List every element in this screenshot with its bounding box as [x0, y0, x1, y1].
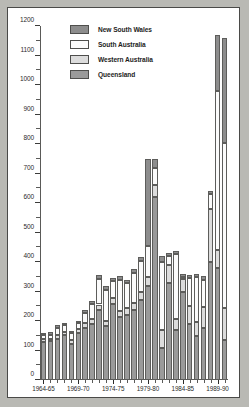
x-tick	[176, 380, 177, 383]
y-tick	[35, 350, 40, 351]
bar-1969-70	[76, 321, 82, 380]
y-tick-label: 1200	[20, 16, 34, 23]
y-tick	[36, 158, 40, 159]
bar-segment-nsw	[131, 269, 137, 273]
bar-segment-wa	[152, 185, 158, 197]
bar-1977-78	[131, 269, 137, 380]
bar-segment-qld	[159, 348, 165, 380]
x-tick	[127, 380, 128, 383]
bar-segment-nsw	[152, 159, 158, 168]
bar-segment-sa	[138, 261, 144, 292]
y-tick	[36, 217, 40, 218]
bar-segment-sa	[215, 91, 221, 250]
bar-segment-wa	[82, 323, 88, 328]
plot-area: 0100200300400500600700800900100011001200…	[40, 26, 228, 380]
bar-segment-qld	[166, 283, 172, 380]
bar-segment-sa	[208, 194, 214, 209]
chart-card: New South WalesSouth AustraliaWestern Au…	[7, 7, 240, 398]
bar-1971-72	[89, 301, 95, 380]
bar-segment-nsw	[103, 286, 109, 290]
bar-1975-76	[117, 276, 123, 380]
y-tick	[36, 305, 40, 306]
y-tick	[36, 276, 40, 277]
bar-segment-sa	[48, 335, 54, 339]
bar-segment-nsw	[124, 280, 130, 284]
x-tick	[148, 380, 149, 384]
bar-segment-wa	[208, 209, 214, 262]
y-tick	[35, 202, 40, 203]
x-tick	[155, 380, 156, 383]
bar-segment-wa	[187, 306, 193, 324]
bar-segment-sa	[201, 280, 207, 307]
x-tick	[134, 380, 135, 383]
y-tick	[35, 55, 40, 56]
bar-segment-qld	[110, 304, 116, 380]
x-tick	[92, 380, 93, 383]
bar-segment-nsw	[145, 159, 151, 246]
y-tick	[35, 84, 40, 85]
bar-segment-nsw	[117, 276, 123, 280]
y-tick	[36, 335, 40, 336]
bar-segment-nsw	[159, 256, 165, 262]
bar-segment-wa	[159, 330, 165, 348]
y-tick-label: 400	[23, 252, 34, 259]
bar-segment-wa	[110, 298, 116, 304]
y-tick-label: 0	[30, 370, 34, 377]
bar-segment-qld	[76, 333, 82, 380]
bar-segment-wa	[48, 339, 54, 341]
bar-segment-wa	[215, 250, 221, 268]
bar-segment-wa	[131, 303, 137, 309]
bar-segment-qld	[41, 342, 47, 380]
bar-1978-79	[138, 257, 144, 380]
x-tick	[169, 380, 170, 383]
bar-segment-nsw	[48, 332, 54, 334]
y-tick	[35, 25, 40, 26]
bar-1976-77	[124, 280, 130, 380]
bar-segment-nsw	[69, 331, 75, 333]
bar-segment-nsw	[180, 274, 186, 277]
bar-segment-qld	[180, 292, 186, 381]
x-tick	[64, 380, 65, 383]
bar-segment-nsw	[76, 321, 82, 323]
bar-1988-89	[208, 191, 214, 380]
bar-segment-wa	[103, 321, 109, 326]
bar-1990-91	[222, 38, 228, 380]
bar-segment-nsw	[82, 310, 88, 313]
bar-segment-sa	[82, 313, 88, 323]
y-tick	[35, 114, 40, 115]
x-tick	[141, 380, 142, 383]
y-tick-label: 700	[23, 163, 34, 170]
y-tick	[36, 187, 40, 188]
bar-segment-qld	[222, 340, 228, 380]
bar-1980-81	[152, 159, 158, 380]
bar-1967-68	[62, 323, 68, 380]
bar-segment-wa	[89, 319, 95, 324]
x-tick	[113, 380, 114, 384]
bar-1981-82	[159, 256, 165, 380]
y-tick	[36, 246, 40, 247]
y-tick	[36, 128, 40, 129]
y-tick	[36, 69, 40, 70]
bar-segment-wa	[201, 307, 207, 328]
bar-segment-sa	[166, 256, 172, 265]
y-tick-label: 900	[23, 104, 34, 111]
bar-1983-84	[173, 251, 179, 380]
bar-1972-73	[96, 275, 102, 380]
bar-segment-nsw	[166, 253, 172, 256]
bar-segment-qld	[208, 262, 214, 380]
y-tick-label: 1100	[20, 45, 34, 52]
bar-1964-65	[41, 333, 47, 380]
bar-segment-qld	[131, 310, 137, 380]
x-tick	[197, 380, 198, 383]
bar-1970-71	[82, 310, 88, 380]
bar-segment-sa	[180, 277, 186, 279]
bar-segment-nsw	[55, 325, 61, 327]
x-tick-label: 1969-70	[67, 385, 89, 392]
y-tick	[35, 143, 40, 144]
x-tick	[57, 380, 58, 383]
chart-page: New South WalesSouth AustraliaWestern Au…	[0, 0, 249, 407]
y-tick	[35, 232, 40, 233]
x-tick-label: 1964-65	[32, 385, 54, 392]
x-tick-label: 1984-85	[172, 385, 194, 392]
x-tick	[106, 380, 107, 383]
